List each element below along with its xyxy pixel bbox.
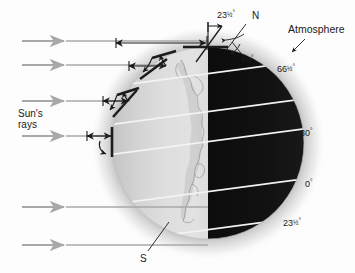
axis-tilt-label: 23½°	[217, 9, 235, 20]
axis-tilt-degree-sign: °	[232, 9, 235, 16]
sun-rays-label-line2: rays	[18, 119, 37, 130]
figure-canvas: 23½° N 90° Atmosphere Sun's rays 66½° 30…	[0, 0, 355, 273]
north-pole-label: N	[252, 10, 259, 21]
atmosphere-leader	[292, 39, 305, 52]
svg-text:23½°: 23½°	[217, 9, 235, 20]
latitude-label-23-5-s: 23½°	[283, 217, 301, 228]
right-angle-degree-sign: °	[251, 54, 254, 61]
south-pole-label: S	[140, 253, 147, 264]
earth-insolation-diagram: 23½° N 90° Atmosphere Sun's rays 66½° 30…	[0, 0, 355, 273]
sun-rays-label-line1: Sun's	[18, 108, 43, 119]
sun-rays-group	[22, 41, 64, 245]
right-angle-value: 90	[241, 55, 251, 65]
atmosphere-label: Atmosphere	[288, 23, 345, 35]
axis-tilt-value: 23	[217, 10, 227, 20]
